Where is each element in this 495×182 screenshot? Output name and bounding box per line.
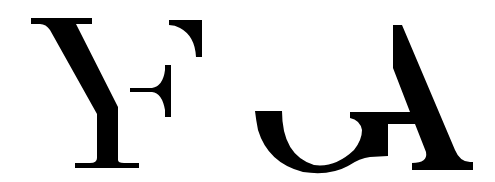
letter-f-top-glyph [169, 20, 202, 57]
letter-y-glyph [31, 18, 139, 168]
letter-a-glyph [388, 25, 473, 170]
monogram-logo [0, 0, 495, 182]
letter-g-glyph [255, 111, 388, 173]
letter-f-middle-glyph [130, 65, 171, 117]
